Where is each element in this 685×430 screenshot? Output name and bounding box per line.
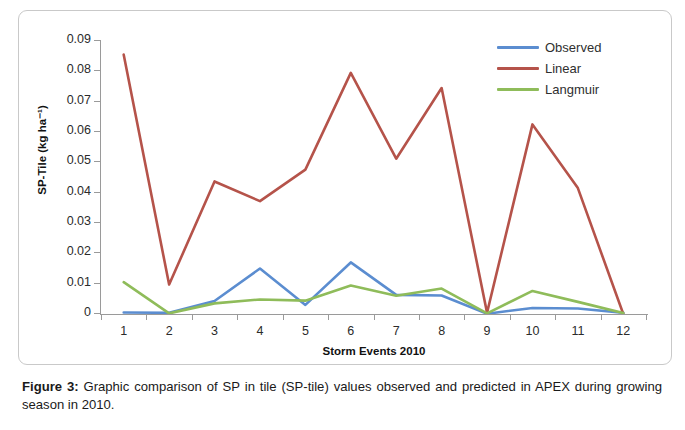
y-axis-tick [94,40,100,41]
x-axis-tick [374,314,375,320]
legend-item-linear: Linear [497,58,601,79]
x-axis-tick [101,314,102,320]
x-axis-tick [237,314,238,320]
y-axis-tick-label: 0.01 [37,275,91,289]
x-axis-tick [555,314,556,320]
figure-frame: 00.010.020.030.040.050.060.070.080.09 SP… [18,10,672,365]
x-axis-tick-label: 7 [381,324,411,338]
y-axis-tick-label: 0.02 [37,244,91,258]
x-axis-tick [283,314,284,320]
x-axis-tick [464,314,465,320]
figure-caption-label: Figure 3: [22,379,79,394]
y-axis-tick [94,131,100,132]
chart-area: 00.010.020.030.040.050.060.070.080.09 SP… [19,11,671,364]
x-axis-tick-label: 8 [427,324,457,338]
x-axis-tick-label: 6 [336,324,366,338]
legend-swatch-icon [497,46,539,49]
x-axis-tick-label: 11 [563,324,593,338]
y-axis-tick [94,70,100,71]
x-axis-title: Storm Events 2010 [100,345,648,357]
x-axis-tick [328,314,329,320]
y-axis-title: SP-Tile (kg ha⁻¹) [35,65,49,235]
y-axis-tick [94,192,100,193]
legend-item-observed: Observed [497,37,601,58]
y-axis-tick [94,101,100,102]
y-axis-tick-label: 0.09 [37,32,91,46]
legend: ObservedLinearLangmuir [497,37,601,100]
x-axis-tick-label: 5 [290,324,320,338]
y-axis-tick [94,161,100,162]
x-axis-tick-label: 9 [472,324,502,338]
legend-swatch-icon [497,67,539,70]
x-axis-tick [646,314,647,320]
x-axis-tick [601,314,602,320]
legend-label: Observed [545,40,601,55]
x-axis-tick-label: 4 [245,324,275,338]
figure-caption-text: Graphic comparison of SP in tile (SP-til… [22,379,662,412]
x-axis-tick-label: 12 [608,324,638,338]
x-axis-tick [510,314,511,320]
x-axis-tick [146,314,147,320]
x-axis-tick-label: 2 [154,324,184,338]
legend-swatch-icon [497,88,539,91]
x-axis-tick-label: 1 [109,324,139,338]
legend-label: Linear [545,61,581,76]
y-axis-tick [94,283,100,284]
legend-label: Langmuir [545,82,599,97]
x-axis-tick-label: 10 [517,324,547,338]
figure-caption: Figure 3: Graphic comparison of SP in ti… [22,378,662,413]
x-axis-tick [419,314,420,320]
y-axis-tick-label: 0 [37,305,91,319]
x-axis-tick-label: 3 [200,324,230,338]
y-axis-tick [94,222,100,223]
x-axis-tick [192,314,193,320]
y-axis-tick [94,252,100,253]
legend-item-langmuir: Langmuir [497,79,601,100]
figure-page: 00.010.020.030.040.050.060.070.080.09 SP… [0,0,685,430]
